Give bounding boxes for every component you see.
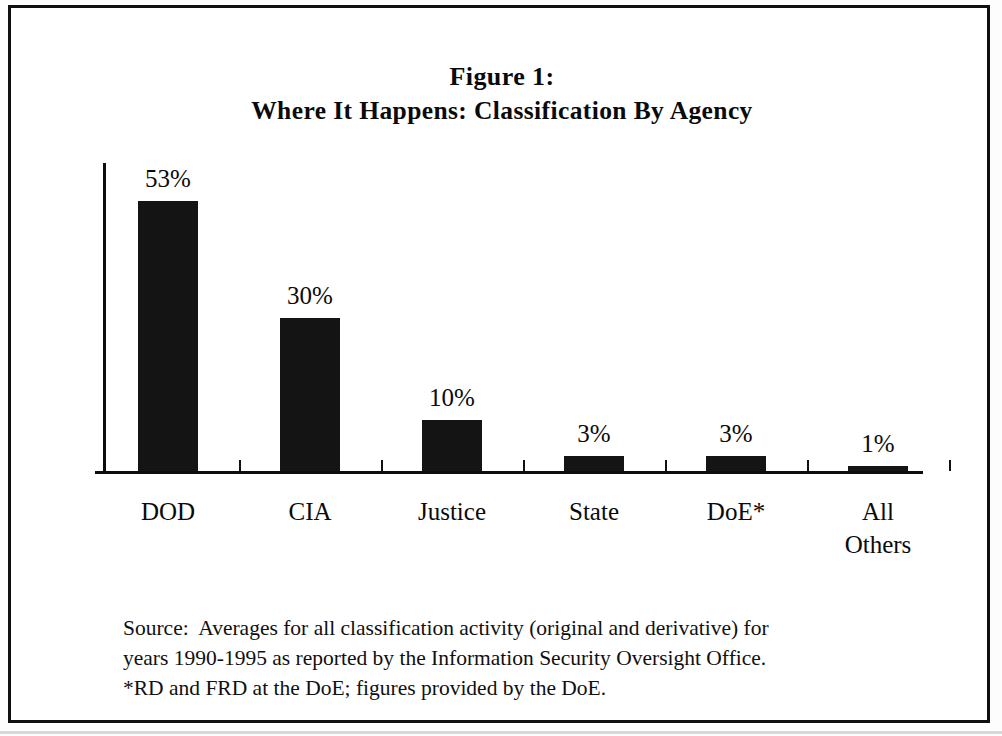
bar-doe: 3%: [706, 8, 766, 471]
bar-dod: 53%: [138, 8, 198, 471]
bar-cia: 30%: [280, 8, 340, 471]
bar-rect: [422, 420, 482, 471]
bar-value-label: 3%: [542, 421, 646, 447]
x-axis-line: [95, 471, 923, 474]
category-label-line-1: DoE*: [661, 495, 811, 528]
bar-rect: [280, 318, 340, 471]
figure-page: Figure 1: Where It Happens: Classificati…: [0, 0, 1002, 736]
bar-value-label: 3%: [684, 421, 788, 447]
category-label-state: State: [519, 495, 669, 528]
category-label-all-others: AllOthers: [803, 495, 953, 561]
source-note: Source: Averages for all classification …: [123, 613, 923, 703]
category-label-cia: CIA: [235, 495, 385, 528]
category-label-line-1: CIA: [235, 495, 385, 528]
category-label-doe: DoE*: [661, 495, 811, 528]
bar-rect: [138, 201, 198, 471]
bars-layer: 53%30%10%3%3%1%: [11, 8, 993, 471]
category-label-line-2: Others: [803, 528, 953, 561]
scan-artifact-line: [0, 731, 1002, 734]
x-axis-tick: [949, 460, 951, 471]
bar-value-label: 10%: [400, 385, 504, 411]
category-label-line-1: DOD: [93, 495, 243, 528]
bar-rect: [848, 466, 908, 471]
category-label-line-1: All: [803, 495, 953, 528]
source-note-line-2: years 1990-1995 as reported by the Infor…: [123, 643, 923, 673]
x-axis-tick: [239, 460, 241, 471]
x-axis-tick: [381, 460, 383, 471]
bar-value-label: 1%: [826, 431, 930, 457]
bar-state: 3%: [564, 8, 624, 471]
category-label-line-1: State: [519, 495, 669, 528]
bar-value-label: 53%: [116, 166, 220, 192]
figure-border-frame: Figure 1: Where It Happens: Classificati…: [8, 5, 990, 723]
bar-value-label: 30%: [258, 283, 362, 309]
bar-justice: 10%: [422, 8, 482, 471]
x-axis-tick: [807, 460, 809, 471]
source-note-line-1: Source: Averages for all classification …: [123, 613, 923, 643]
x-axis-tick: [665, 460, 667, 471]
source-note-line-3: *RD and FRD at the DoE; figures provided…: [123, 673, 923, 703]
category-label-justice: Justice: [377, 495, 527, 528]
category-label-dod: DOD: [93, 495, 243, 528]
x-axis-tick: [523, 460, 525, 471]
bar-rect: [706, 456, 766, 471]
category-label-line-1: Justice: [377, 495, 527, 528]
bar-all-others: 1%: [848, 8, 908, 471]
bar-rect: [564, 456, 624, 471]
